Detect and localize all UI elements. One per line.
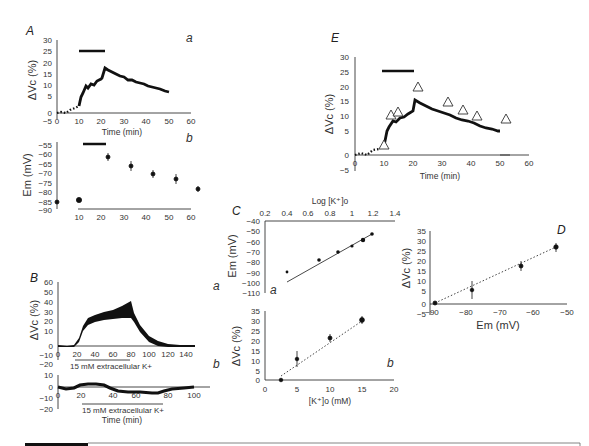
svg-text:5: 5 <box>256 367 261 376</box>
subpanel-label-b: b <box>387 356 394 370</box>
svg-text:−90: −90 <box>246 269 260 278</box>
panel-label-D: D <box>557 223 566 237</box>
svg-text:20: 20 <box>251 337 260 346</box>
svg-text:−60: −60 <box>246 238 260 247</box>
svg-text:0: 0 <box>49 383 54 392</box>
svg-text:−70: −70 <box>493 308 507 317</box>
svg-text:20: 20 <box>390 385 399 394</box>
svg-text:−10: −10 <box>39 351 53 360</box>
svg-text:−70: −70 <box>246 248 260 257</box>
svg-text:30: 30 <box>43 36 52 45</box>
svg-text:0: 0 <box>256 376 261 385</box>
y-axis-label: ΔVc (%) <box>400 248 412 288</box>
svg-text:30: 30 <box>251 317 260 326</box>
subpanel-label-a: a <box>270 283 277 297</box>
svg-text:25: 25 <box>340 68 349 77</box>
y-axis-label: ΔVc (%) <box>323 94 335 134</box>
svg-text:0.6: 0.6 <box>302 209 314 218</box>
svg-text:−80: −80 <box>38 188 52 197</box>
subpanel-label-b: b <box>186 131 193 145</box>
chart-A-b: b −55 −60 −65 −70 −75 −80 −85 −90 10 20 … <box>21 131 200 222</box>
svg-text:−90: −90 <box>425 308 439 317</box>
svg-text:10: 10 <box>44 371 53 380</box>
annotation-k: 15 mM extracellular K+ <box>70 362 152 371</box>
chart-D: D 35 30 25 20 15 10 5 0 −5 −90 −80 −70 −… <box>400 223 574 331</box>
svg-text:25: 25 <box>251 327 260 336</box>
svg-text:0: 0 <box>56 391 61 400</box>
x-axis-label: Em (mV) <box>476 319 519 331</box>
chart-E: E 30 25 20 15 10 5 0 −5 0 10 20 30 40 50… <box>323 31 534 181</box>
svg-text:0: 0 <box>353 159 358 168</box>
svg-text:−80: −80 <box>246 258 260 267</box>
svg-text:40: 40 <box>142 117 151 126</box>
svg-text:20: 20 <box>97 117 106 126</box>
svg-text:15: 15 <box>251 347 260 356</box>
svg-text:60: 60 <box>187 117 196 126</box>
y-axis-label: Em (mV) <box>21 153 33 196</box>
chart-C-b: b 35 30 25 20 15 10 5 0 0 5 10 15 20 [K⁺… <box>230 307 399 406</box>
svg-text:60: 60 <box>525 159 534 168</box>
svg-text:20: 20 <box>77 391 86 400</box>
svg-text:−55: −55 <box>38 141 52 150</box>
svg-text:10: 10 <box>43 81 52 90</box>
svg-text:30: 30 <box>340 53 349 62</box>
svg-text:10: 10 <box>251 357 260 366</box>
svg-text:10: 10 <box>417 277 426 286</box>
svg-text:−100: −100 <box>242 279 261 288</box>
figure-canvas: A a 30 25 20 15 10 5 0 −5 0 10 20 30 40 … <box>0 0 589 446</box>
x-axis-label: [K⁺]o (mM) <box>309 396 351 406</box>
svg-text:40: 40 <box>91 350 100 359</box>
svg-text:0: 0 <box>49 342 54 351</box>
svg-text:15: 15 <box>340 97 349 106</box>
fit-line <box>435 247 556 303</box>
svg-text:35: 35 <box>417 227 426 236</box>
svg-text:30: 30 <box>438 159 447 168</box>
svg-text:1.4: 1.4 <box>389 209 401 218</box>
svg-text:20: 20 <box>44 317 53 326</box>
svg-text:20: 20 <box>417 257 426 266</box>
svg-text:0.4: 0.4 <box>281 209 293 218</box>
svg-text:−90: −90 <box>38 206 52 215</box>
subpanel-label-a: a <box>186 31 193 45</box>
svg-text:15: 15 <box>358 385 367 394</box>
svg-text:0: 0 <box>345 151 350 160</box>
svg-text:60: 60 <box>187 213 196 222</box>
svg-text:0: 0 <box>56 350 61 359</box>
svg-text:0.8: 0.8 <box>324 209 336 218</box>
svg-text:30: 30 <box>120 213 129 222</box>
svg-text:−60: −60 <box>38 150 52 159</box>
svg-text:15: 15 <box>417 267 426 276</box>
svg-text:10: 10 <box>326 385 335 394</box>
svg-text:−50: −50 <box>560 308 574 317</box>
svg-text:20: 20 <box>409 159 418 168</box>
svg-text:40: 40 <box>467 159 476 168</box>
svg-text:50: 50 <box>496 159 505 168</box>
svg-text:−60: −60 <box>526 308 540 317</box>
svg-text:20: 20 <box>340 83 349 92</box>
svg-text:5: 5 <box>422 287 427 296</box>
fit-line <box>281 321 362 376</box>
svg-text:25: 25 <box>43 47 52 56</box>
svg-text:−20: −20 <box>39 405 53 414</box>
svg-text:35: 35 <box>251 307 260 316</box>
panel-label-B: B <box>30 271 38 285</box>
panel-label-E: E <box>331 31 340 45</box>
chart-A-a: A a 30 25 20 15 10 5 0 −5 0 10 20 30 40 … <box>25 24 196 137</box>
svg-text:25: 25 <box>417 247 426 256</box>
svg-text:10: 10 <box>44 327 53 336</box>
svg-text:50: 50 <box>44 288 53 297</box>
svg-text:0.2: 0.2 <box>259 209 271 218</box>
x-axis-label: Time (min) <box>102 127 142 137</box>
svg-text:40: 40 <box>44 298 53 307</box>
svg-text:−75: −75 <box>38 179 52 188</box>
svg-text:10: 10 <box>380 159 389 168</box>
svg-text:5: 5 <box>345 127 350 136</box>
svg-text:50: 50 <box>165 117 174 126</box>
fit-line <box>287 234 372 282</box>
svg-text:30: 30 <box>44 308 53 317</box>
svg-text:100: 100 <box>187 391 201 400</box>
y-axis-label: ΔVc (%) <box>28 300 40 340</box>
svg-text:−5: −5 <box>43 117 53 126</box>
subpanel-label-b: b <box>213 357 220 371</box>
svg-text:20: 20 <box>43 59 52 68</box>
